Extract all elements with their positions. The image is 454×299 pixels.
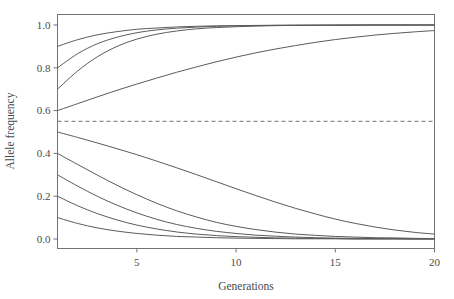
x-tick-label: 10 xyxy=(231,256,243,268)
trajectory-line xyxy=(58,175,435,239)
trajectory-line xyxy=(58,153,435,238)
y-tick-label: 0.6 xyxy=(37,104,51,116)
data-curves xyxy=(58,25,435,239)
y-axis-tick-labels: 0.00.20.40.60.81.0 xyxy=(37,19,51,245)
trajectory-line xyxy=(58,196,435,239)
trajectory-line xyxy=(58,25,435,46)
y-tick-label: 0.0 xyxy=(37,233,51,245)
x-axis-tickmarks xyxy=(137,249,435,253)
x-tick-label: 20 xyxy=(429,256,441,268)
y-tick-label: 0.4 xyxy=(37,147,51,159)
x-tick-label: 15 xyxy=(330,256,342,268)
y-axis-tickmarks xyxy=(54,25,58,239)
chart-canvas: 0.00.20.40.60.81.0 5101520 Generations A… xyxy=(0,0,454,299)
x-axis-tick-labels: 5101520 xyxy=(134,256,440,268)
y-tick-label: 1.0 xyxy=(37,19,51,31)
trajectory-line xyxy=(58,25,435,68)
x-tick-label: 5 xyxy=(134,256,140,268)
y-tick-label: 0.2 xyxy=(37,190,51,202)
plot-frame xyxy=(58,15,435,249)
y-axis-title: Allele frequency xyxy=(4,92,17,169)
x-axis-title: Generations xyxy=(218,280,274,292)
trajectory-line xyxy=(58,31,435,111)
allele-frequency-figure: 0.00.20.40.60.81.0 5101520 Generations A… xyxy=(0,0,454,299)
y-tick-label: 0.8 xyxy=(37,62,51,74)
